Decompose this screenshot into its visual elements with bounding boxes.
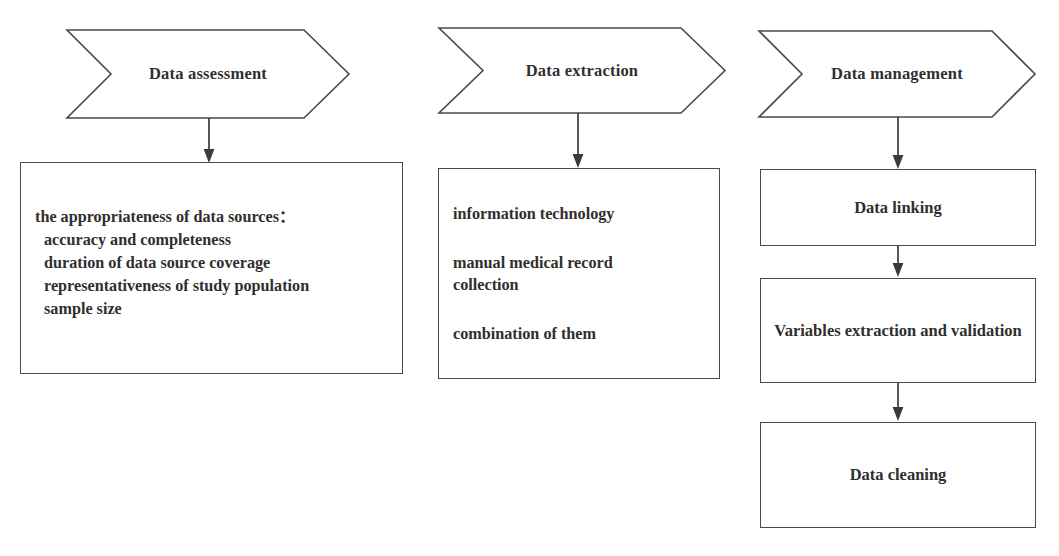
list-item: accuracy and completeness [35, 229, 396, 252]
arrow-management-to-data-linking [889, 117, 907, 170]
banner-data-management[interactable]: Data management [758, 30, 1036, 118]
list-item-line: combination of them [453, 325, 596, 343]
box-data-linking-label: Data linking [854, 197, 942, 218]
list-item-line: information technology [453, 205, 614, 223]
banner-data-extraction[interactable]: Data extraction [438, 27, 726, 114]
flowchart-canvas: Data assessment the appropriateness of d… [0, 0, 1059, 556]
arrow-assessment-to-criteria [200, 118, 218, 164]
list-item-line: collection [453, 274, 713, 297]
arrow-data-linking-to-variables [889, 246, 907, 278]
list-item: combination of them [453, 323, 713, 346]
box-variables-extraction-and-validation: Variables extraction and validation [760, 278, 1036, 383]
banner-data-assessment[interactable]: Data assessment [66, 29, 350, 119]
box-data-linking: Data linking [760, 169, 1036, 246]
box-variables-extraction-and-validation-label: Variables extraction and validation [774, 320, 1021, 341]
list-item: duration of data source coverage [35, 252, 396, 275]
list-item: the appropriateness of data sources： [35, 206, 396, 229]
list-item-line: manual medical record [453, 252, 713, 275]
banner-data-extraction-label: Data extraction [438, 61, 726, 81]
box-data-cleaning-label: Data cleaning [850, 464, 947, 485]
box-data-cleaning: Data cleaning [760, 422, 1036, 528]
list-item: manual medical record collection [453, 252, 713, 297]
assessment-criteria-list: the appropriateness of data sources： acc… [35, 206, 396, 321]
extraction-methods-list: information technology manual medical re… [453, 203, 713, 346]
arrow-variables-to-data-cleaning [889, 383, 907, 422]
list-item: information technology [453, 203, 713, 226]
arrow-extraction-to-methods [569, 113, 587, 169]
box-assessment-criteria: the appropriateness of data sources： acc… [20, 162, 403, 374]
banner-data-assessment-label: Data assessment [66, 64, 350, 84]
box-extraction-methods: information technology manual medical re… [438, 168, 720, 379]
banner-data-management-label: Data management [758, 64, 1036, 84]
list-item: sample size [35, 298, 396, 321]
list-item: representativeness of study population [35, 275, 396, 298]
